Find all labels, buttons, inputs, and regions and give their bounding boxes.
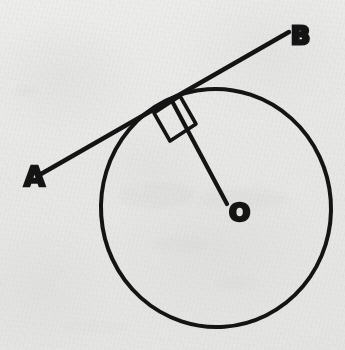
centre-point-o-marker: O	[229, 198, 250, 227]
label-point-b: B	[291, 21, 310, 50]
diagram-ink-layer: A B O	[0, 0, 345, 350]
label-centre-o: O	[229, 198, 250, 227]
point-b-marker: B	[291, 21, 310, 50]
point-a-marker: A	[24, 161, 45, 192]
tangent-line-ab	[41, 32, 289, 174]
diagram-canvas: A B O	[0, 0, 345, 350]
radius-to-tangent-point	[172, 101, 227, 204]
circle	[93, 81, 339, 334]
label-point-a: A	[24, 161, 45, 192]
